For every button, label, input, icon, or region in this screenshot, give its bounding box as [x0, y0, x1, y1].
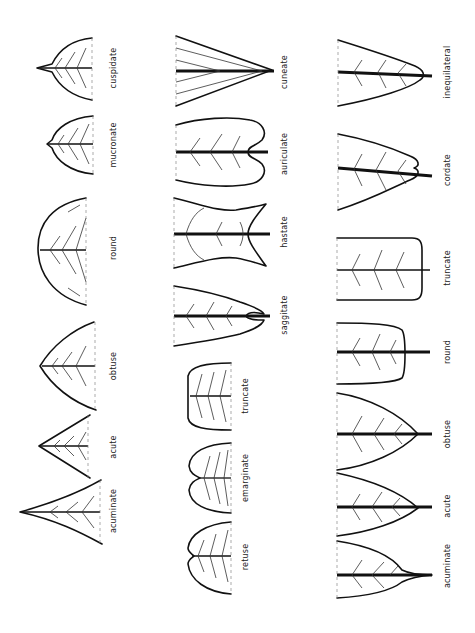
leaf-apex-round-drawing	[38, 198, 86, 305]
label-base-inequilateral: inequilateral	[443, 46, 452, 99]
leaf-apex-emarginate-drawing	[189, 443, 231, 513]
leaf-base-saggitate-drawing	[174, 286, 270, 346]
leaf-base-truncate-drawing	[337, 238, 430, 300]
label-base-cuneate: cuneate	[280, 55, 289, 89]
label-apex-acute: acute	[109, 435, 118, 458]
label-apex-mucronate: mucronate	[109, 122, 118, 167]
label-apex-round: round	[109, 236, 118, 260]
label-apex-truncate: truncate	[241, 378, 250, 414]
leaf-apex-mucronate-drawing	[47, 116, 93, 174]
label-base-truncate: truncate	[443, 250, 452, 286]
label-base-cordate: cordate	[443, 154, 452, 186]
label-apex-emarginate: emarginate	[241, 454, 250, 502]
label-base-acuminate: acuminate	[443, 544, 452, 588]
label-base-auriculate: auriculate	[280, 133, 289, 175]
label-apex-acuminate: acuminate	[109, 489, 118, 533]
label-base-hastate: hastate	[280, 216, 289, 248]
leaf-apex-retuse-drawing	[188, 522, 231, 594]
leaf-base-round-drawing	[337, 323, 430, 384]
label-apex-cuspidate: cuspidate	[109, 48, 118, 89]
leaf-base-cordate-drawing	[338, 134, 432, 210]
label-base-obtuse: obtuse	[443, 420, 452, 448]
leaf-apex-cuspidate-drawing	[37, 38, 92, 100]
leaf-shapes-diagram: cuspidate mucronate round obtuse acute a…	[0, 0, 475, 633]
leaf-base-obtuse-drawing	[337, 393, 432, 470]
leaf-apex-acute-drawing	[39, 415, 90, 478]
leaf-drawings	[0, 0, 475, 633]
label-base-acute: acute	[443, 494, 452, 517]
label-base-round: round	[443, 340, 452, 364]
label-apex-obtuse: obtuse	[109, 352, 118, 380]
label-apex-retuse: retuse	[241, 544, 250, 571]
label-base-saggitate: saggitate	[280, 295, 289, 334]
leaf-base-auriculate-drawing	[176, 118, 268, 186]
leaf-apex-truncate-drawing	[188, 363, 231, 430]
leaf-base-hastate-drawing	[174, 198, 270, 268]
leaf-base-inequilateral-drawing	[338, 40, 432, 106]
leaf-apex-acuminate-drawing	[20, 480, 102, 544]
leaf-base-acuminate-drawing	[337, 541, 432, 598]
leaf-apex-obtuse-drawing	[40, 322, 96, 410]
leaf-base-cuneate-drawing	[176, 36, 274, 106]
leaf-base-acute-drawing	[337, 473, 432, 536]
